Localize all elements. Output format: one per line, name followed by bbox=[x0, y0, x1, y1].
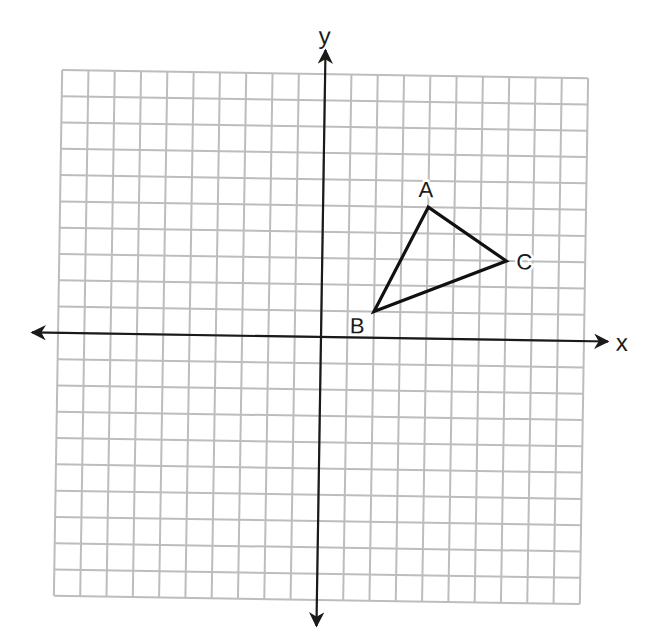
x-axis-label: x bbox=[616, 329, 628, 356]
y-axis-label: y bbox=[319, 22, 331, 49]
coordinate-plane: x y A B C bbox=[0, 0, 654, 644]
vertex-label-b: B bbox=[350, 313, 365, 338]
coordinate-plane-figure: x y A B C bbox=[0, 0, 654, 644]
vertex-label-a: A bbox=[418, 177, 433, 202]
axes: x y bbox=[27, 17, 632, 630]
vertex-label-c: C bbox=[516, 249, 532, 274]
